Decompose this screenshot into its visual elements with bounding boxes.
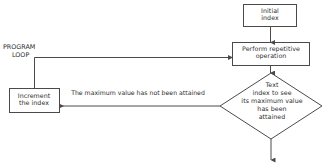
edge-label-max-not-attained: The maximum value has not been attained: [62, 89, 214, 96]
node-decision-diamond: [220, 73, 322, 139]
node-initial-index: [244, 5, 297, 27]
flowchart-canvas: Initial index Perform repetitive operati…: [0, 0, 328, 163]
node-increment-index: [10, 89, 60, 113]
program-loop-annotation: PROGRAM LOOP: [3, 35, 63, 67]
node-perform-operation: [233, 43, 310, 66]
flowchart-graphics: [0, 0, 328, 163]
program-loop-annotation-line2: LOOP: [3, 51, 63, 59]
program-loop-annotation-line1: PROGRAM: [3, 43, 35, 51]
edge-increment-loop-to-perform: [35, 58, 233, 89]
